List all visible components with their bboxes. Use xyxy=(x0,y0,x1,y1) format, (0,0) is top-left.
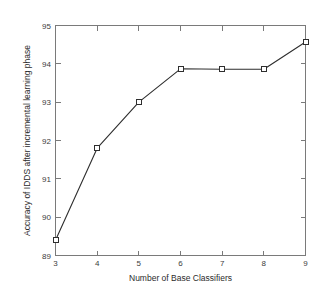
y-tick-label: 94 xyxy=(42,60,51,69)
data-series xyxy=(53,39,308,242)
x-tick-label: 8 xyxy=(262,259,267,268)
data-point-marker xyxy=(53,238,58,243)
y-tick-label: 92 xyxy=(42,137,51,146)
y-tick-label: 90 xyxy=(42,213,51,222)
x-tick-label: 5 xyxy=(137,259,142,268)
y-axis-title: Accuracy of IDDS after incremental learn… xyxy=(22,45,32,236)
y-tick-label: 95 xyxy=(42,22,51,31)
data-point-marker xyxy=(95,146,100,151)
line-chart: 89 90 91 92 93 94 95 3 4 5 6 7 8 9 Numbe… xyxy=(0,0,324,295)
plot-border xyxy=(56,26,306,256)
x-tick-label: 6 xyxy=(178,259,183,268)
chart-figure: 89 90 91 92 93 94 95 3 4 5 6 7 8 9 Numbe… xyxy=(0,0,324,295)
x-tick-label: 3 xyxy=(53,259,58,268)
data-point-marker xyxy=(178,66,183,71)
data-point-marker xyxy=(220,67,225,72)
x-tick-label: 9 xyxy=(303,259,308,268)
series-markers xyxy=(53,39,308,242)
data-point-marker xyxy=(261,67,266,72)
y-tick-labels: 89 90 91 92 93 94 95 xyxy=(42,22,51,261)
y-axis-ticks xyxy=(56,26,306,256)
y-tick-label: 93 xyxy=(42,98,51,107)
axes-frame xyxy=(56,26,306,256)
x-axis-title: Number of Base Classifiers xyxy=(129,273,232,283)
data-point-marker xyxy=(303,39,308,44)
y-tick-label: 91 xyxy=(42,175,51,184)
x-tick-label: 7 xyxy=(220,259,225,268)
data-point-marker xyxy=(136,100,141,105)
y-tick-label: 89 xyxy=(42,252,51,261)
x-tick-label: 4 xyxy=(95,259,100,268)
x-axis-ticks xyxy=(56,26,306,256)
x-tick-labels: 3 4 5 6 7 8 9 xyxy=(53,259,308,268)
